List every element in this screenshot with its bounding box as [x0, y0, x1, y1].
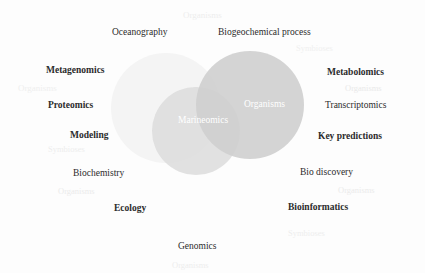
label-biogeochemical-process: Biogeochemical process — [218, 28, 311, 38]
label-bioinformatics: Bioinformatics — [288, 203, 348, 213]
label-oceanography: Oceanography — [112, 28, 167, 38]
label-genomics: Genomics — [178, 242, 217, 252]
label-transcriptomics: Transcriptomics — [325, 101, 386, 111]
watermark-text: Symbioses — [48, 145, 85, 154]
watermark-text: Symbioses — [288, 229, 325, 238]
circle-label-marineomics: Marineomics — [178, 116, 228, 126]
label-key-predictions: Key predictions — [318, 132, 382, 142]
watermark-text: Organisms — [183, 11, 222, 20]
circle-label-organisms: Organisms — [244, 100, 285, 110]
label-bio-discovery: Bio discovery — [300, 168, 353, 178]
watermark-text: Organisms — [345, 84, 382, 93]
watermark-text: Organisms — [338, 186, 375, 195]
label-proteomics: Proteomics — [48, 101, 93, 111]
label-biochemistry: Biochemistry — [73, 169, 124, 179]
watermark-text: Organisms — [58, 187, 95, 196]
venn-circle-group — [111, 51, 304, 175]
watermark-text: Organisms — [172, 261, 209, 270]
label-metagenomics: Metagenomics — [46, 66, 105, 76]
venn-diagram-figure: Organisms Symbioses Organisms Organisms … — [0, 0, 425, 273]
label-ecology: Ecology — [114, 204, 146, 214]
label-modeling: Modeling — [70, 131, 109, 141]
watermark-text: Symbioses — [296, 44, 333, 53]
label-metabolomics: Metabolomics — [327, 68, 384, 78]
watermark-text: Organisms — [18, 84, 57, 93]
